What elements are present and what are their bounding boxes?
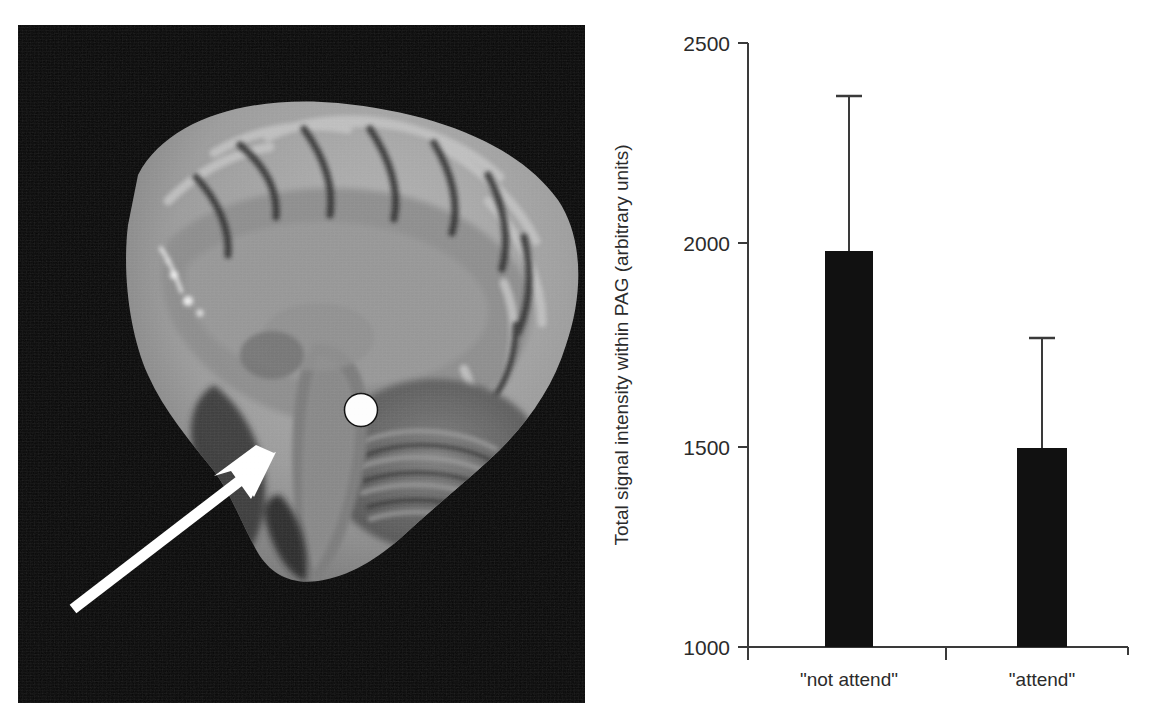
- bar-not-attend: [825, 96, 873, 647]
- bar-chart-pag-signal: 2500 2000 1500 1000 Total signal intensi…: [600, 0, 1157, 728]
- mri-image: [18, 25, 585, 703]
- x-category-label-attend: "attend": [1009, 669, 1075, 690]
- pag-circle-marker: [345, 394, 378, 427]
- sagittal-mri-brain-slice: [18, 25, 585, 703]
- y-axis-ticks: [738, 43, 748, 647]
- y-tick-label-1000: 1000: [683, 636, 730, 659]
- chart-canvas: 2500 2000 1500 1000 Total signal intensi…: [600, 0, 1157, 728]
- bar-rect-attend: [1017, 448, 1067, 647]
- figure-root: 2500 2000 1500 1000 Total signal intensi…: [0, 0, 1157, 728]
- y-axis-title: Total signal intensity within PAG (arbit…: [611, 145, 632, 546]
- x-axis-ticks: [748, 647, 1128, 660]
- y-tick-label-2000: 2000: [683, 232, 730, 255]
- y-tick-label-1500: 1500: [683, 436, 730, 459]
- bar-rect-not-attend: [825, 251, 873, 647]
- x-category-label-not-attend: "not attend": [800, 669, 898, 690]
- y-tick-label-2500: 2500: [683, 32, 730, 55]
- bar-attend: [1017, 338, 1067, 647]
